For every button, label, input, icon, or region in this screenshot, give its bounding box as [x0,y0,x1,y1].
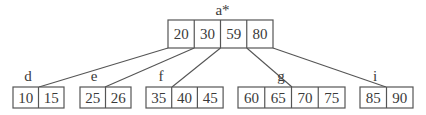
child-node-i: 8590 [360,87,413,108]
child-node-d: 1015 [13,87,64,108]
key-cell: 85 [366,90,381,106]
key-cell: 90 [392,90,407,106]
child-node-g: 60657075 [238,87,345,108]
key-cell: 80 [252,26,267,42]
edge-to-f [172,48,221,87]
child-node-e: 2526 [80,87,131,108]
key-cell: 26 [111,90,127,106]
node-label-g: g [277,68,285,84]
key-cell: 10 [18,90,33,106]
child-node-f: 354045 [146,87,223,108]
key-cell: 35 [151,90,166,106]
root-node: 20305980 [168,20,273,48]
key-cell: 65 [271,90,286,106]
node-label-e: e [91,68,98,84]
key-cell: 75 [324,90,339,106]
node-label-root: a* [215,2,229,18]
key-cell: 60 [244,90,259,106]
key-cell: 45 [203,90,218,106]
node-label-d: d [24,68,32,84]
key-cell: 30 [200,26,215,42]
key-cell: 20 [174,26,189,42]
edge-to-g [247,48,292,87]
key-cell: 15 [44,90,59,106]
key-cell: 40 [177,90,192,106]
node-label-f: f [159,68,164,84]
b-tree-diagram: 20305980a*1015d2526e354045f60657075g8590… [0,0,426,115]
key-cell: 59 [226,26,241,42]
key-cell: 70 [297,90,312,106]
key-cell: 25 [85,90,100,106]
node-label-i: i [373,68,377,84]
nodes: 20305980a*1015d2526e354045f60657075g8590… [13,2,413,108]
edge-to-i [273,48,386,87]
